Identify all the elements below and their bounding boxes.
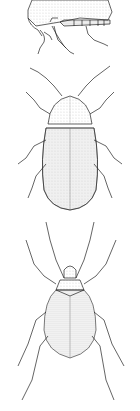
beetle-dorsal-oval <box>18 66 122 210</box>
beetle-dorsal-pear <box>18 222 124 400</box>
beetle-illustration-plate <box>0 0 140 411</box>
beetle-side-view <box>28 0 112 54</box>
